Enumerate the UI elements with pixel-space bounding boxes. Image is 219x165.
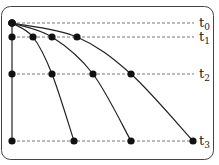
- curve-3: [12, 23, 193, 141]
- point: [48, 33, 55, 40]
- curves: [12, 23, 193, 141]
- curve-2: [12, 23, 131, 141]
- point: [48, 70, 55, 77]
- level-labels: t0t1t2t3: [199, 15, 210, 150]
- point: [70, 137, 77, 144]
- level-lines: [12, 23, 194, 141]
- point: [8, 70, 15, 77]
- point: [8, 19, 15, 26]
- label-t3: t3: [199, 133, 210, 150]
- point: [8, 33, 15, 40]
- point: [127, 137, 134, 144]
- label-t2: t2: [199, 66, 210, 83]
- point: [127, 70, 134, 77]
- point: [8, 137, 15, 144]
- point: [73, 33, 80, 40]
- point: [29, 33, 36, 40]
- diagram: t0t1t2t3: [0, 0, 219, 165]
- curve-1: [12, 23, 74, 141]
- point: [189, 137, 196, 144]
- points: [8, 19, 196, 144]
- point: [89, 70, 96, 77]
